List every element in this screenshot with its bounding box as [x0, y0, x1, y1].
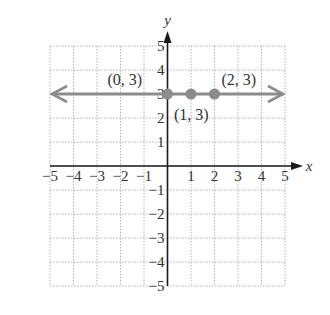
y-tick-label: −3	[149, 230, 165, 246]
x-tick-label: 5	[281, 168, 289, 184]
data-point	[186, 89, 197, 100]
data-point	[162, 89, 173, 100]
point-label: (1, 3)	[174, 106, 209, 124]
x-tick-label: 3	[234, 168, 242, 184]
x-tick-label: 2	[211, 168, 219, 184]
plotted-points: (0, 3)(1, 3)(2, 3)	[108, 71, 257, 124]
x-tick-label: 4	[258, 168, 266, 184]
y-tick-label: 1	[157, 134, 165, 150]
y-tick-label: 2	[157, 110, 165, 126]
y-tick-label: −1	[149, 182, 165, 198]
y-tick-label: 4	[157, 62, 165, 78]
y-tick-label: −2	[149, 206, 165, 222]
point-label: (0, 3)	[108, 71, 143, 89]
y-axis-label: y	[162, 12, 171, 28]
point-label: (2, 3)	[222, 71, 257, 89]
data-point	[209, 89, 220, 100]
y-tick-label: 5	[157, 38, 165, 54]
y-tick-label: −5	[149, 278, 165, 294]
x-tick-label: −2	[113, 168, 129, 184]
x-axis-label: x	[305, 158, 313, 174]
coordinate-plane: xy −5−4−3−2−112345−5−4−3−2−112345 (0, 3)…	[0, 0, 330, 315]
x-tick-label: −3	[89, 168, 105, 184]
x-tick-label: 1	[187, 168, 195, 184]
y-tick-label: −4	[149, 254, 165, 270]
axes: xy	[50, 12, 313, 286]
x-tick-label: −5	[42, 168, 58, 184]
x-axis-arrow-icon	[291, 162, 303, 170]
y-axis-arrow-icon	[164, 31, 172, 43]
x-tick-label: −4	[66, 168, 82, 184]
